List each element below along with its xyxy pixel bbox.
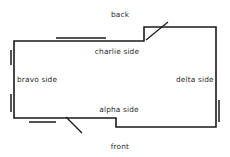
label-delta-side: delta side xyxy=(176,76,214,83)
label-charlie-side: charlie side xyxy=(95,48,139,55)
label-back: back xyxy=(111,11,129,18)
door-swing-front xyxy=(66,117,82,133)
door-swing-back xyxy=(146,22,168,40)
label-alpha-side: alpha side xyxy=(99,106,138,113)
floor-plan-diagram: back charlie side bravo side delta side … xyxy=(0,0,230,157)
label-bravo-side: bravo side xyxy=(17,76,57,83)
label-front: front xyxy=(111,143,129,150)
